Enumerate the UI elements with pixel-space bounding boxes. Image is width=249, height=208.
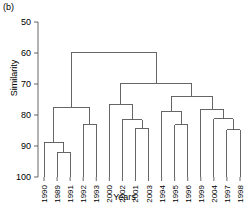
- x-tick-label: 1999: [197, 184, 206, 202]
- x-tick-label: 1998: [236, 184, 245, 202]
- y-tick-label: 60: [21, 48, 31, 58]
- x-tick-label: 1996: [184, 184, 193, 202]
- x-tick-label: 1989: [53, 184, 62, 202]
- dendrogram-figure: (b) Similarity Years 5060708090100199019…: [0, 0, 249, 208]
- x-tick-label: 1991: [66, 184, 75, 202]
- y-tick-label: 100: [16, 172, 31, 182]
- x-tick-label: 1995: [171, 184, 180, 202]
- y-tick-label: 80: [21, 110, 31, 120]
- x-tick-label: 1992: [79, 184, 88, 202]
- x-tick-label: 1990: [40, 184, 49, 202]
- dendrogram-links: [44, 52, 240, 177]
- x-tick-label: 2003: [145, 184, 154, 202]
- x-tick-label: 2000: [105, 184, 114, 202]
- x-tick-label: 1994: [158, 184, 167, 202]
- dendrogram-plot: 5060708090100199019891991199219932000200…: [0, 0, 249, 208]
- y-tick-label: 90: [21, 141, 31, 151]
- x-tick-label: 2001: [131, 184, 140, 202]
- x-tick-label: 1993: [92, 184, 101, 202]
- y-tick-label: 50: [21, 17, 31, 27]
- x-tick-label: 2004: [210, 184, 219, 202]
- y-tick-label: 70: [21, 79, 31, 89]
- x-tick-label: 1997: [223, 184, 232, 202]
- x-tick-label: 2002: [118, 184, 127, 202]
